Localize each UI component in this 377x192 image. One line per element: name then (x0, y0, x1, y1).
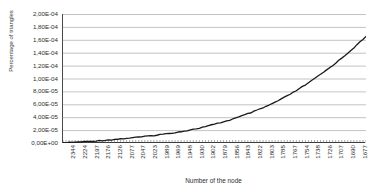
gridlines (63, 15, 366, 131)
y-axis-tick-label: 1,40E-04 (33, 50, 58, 56)
y-axis-tick-label: 4,00E-05 (33, 114, 58, 120)
x-axis-tick-label: 1803 (269, 145, 275, 159)
x-axis-tick-label: 1948 (187, 145, 193, 159)
x-axis-tick-label: 2176 (105, 145, 111, 159)
y-axis-tick-label: 6,00E-05 (33, 101, 58, 107)
x-axis-tick-label: 1690 (350, 145, 356, 159)
x-axis-tick-label: 1822 (257, 145, 263, 159)
y-axis-tick-label: 0,00E+00 (31, 140, 58, 146)
x-axis-tick-label: 1989 (164, 145, 170, 159)
y-axis-tick-label: 1,00E-04 (33, 75, 58, 81)
y-axis-tick-label: 1,20E-04 (33, 62, 58, 68)
x-axis-tick-label: 2077 (129, 145, 135, 159)
x-axis-tick-label: 1754 (304, 145, 310, 159)
x-axis-tick-label: 2023 (152, 145, 158, 159)
y-axis-tick-label: 2,00E-05 (33, 127, 58, 133)
data-series-line (63, 36, 366, 143)
y-axis-tick-label: 1,80E-04 (33, 24, 58, 30)
x-axis-tick-label: 2197 (94, 145, 100, 159)
x-axis-tick-label: 2126 (117, 145, 123, 159)
plot-svg (63, 14, 366, 143)
x-axis-tick-label: 1677 (362, 145, 368, 159)
y-axis-tick-labels: 2,00E-041,80E-041,60E-041,40E-041,20E-04… (14, 14, 60, 143)
x-axis-tick-label: 1969 (175, 145, 181, 159)
x-axis-tick-label: 1785 (280, 145, 286, 159)
y-axis-tick-label: 2,00E-04 (33, 11, 58, 17)
x-axis-tick-label: 2047 (140, 145, 146, 159)
x-axis-tick-label: 1738 (315, 145, 321, 159)
x-axis-tick-label: 1856 (234, 145, 240, 159)
x-axis-tick-label: 1767 (292, 145, 298, 159)
x-axis-tick-label: 1902 (210, 145, 216, 159)
y-axis-tick-label: 8,00E-05 (33, 88, 58, 94)
y-axis-tick-label: 1,60E-04 (33, 37, 58, 43)
x-axis-tick-label: 2224 (82, 145, 88, 159)
x-axis-tick-label: 1930 (199, 145, 205, 159)
chart-container: Percentage of triangles 2,00E-041,80E-04… (0, 0, 377, 192)
x-axis-tick-label: 1707 (338, 145, 344, 159)
x-axis-tick-label: 2344 (70, 145, 76, 159)
x-axis-tick-labels: 2344222421972176212620772047202319891969… (62, 145, 365, 175)
plot-area (62, 14, 365, 143)
x-axis-tick-label: 1843 (245, 145, 251, 159)
x-axis-tick-label: 1879 (222, 145, 228, 159)
x-axis-title: Number of the node (62, 177, 365, 184)
x-axis-tick-label: 1726 (327, 145, 333, 159)
